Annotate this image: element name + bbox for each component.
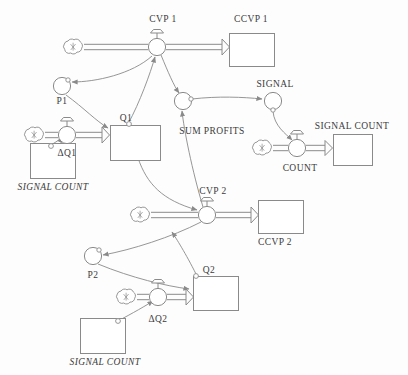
handle-signal-out[interactable] (271, 108, 275, 112)
cloud-icon-dq2 (117, 289, 136, 304)
label-ccvp1: CCVP 1 (234, 14, 268, 24)
flow-arrow-q1 (102, 127, 110, 143)
label-p2: P2 (88, 270, 99, 280)
aux-sum-profits[interactable] (174, 92, 191, 109)
connector-handles (49, 78, 276, 324)
cloud-icon-cvp1 (64, 39, 83, 54)
valve-cvp2[interactable] (198, 198, 215, 224)
label-cvp2: CVP 2 (199, 186, 226, 196)
label-sum-profits: SUM PROFITS (179, 126, 244, 136)
label-q2: Q2 (203, 265, 215, 275)
flow-cloud-to-count (273, 145, 288, 150)
conn-signal-to-count (273, 111, 292, 140)
label-signal-count-left-2: SIGNAL COUNT (70, 357, 141, 367)
conn-p1-to-q1 (66, 95, 108, 128)
flow-arrow-ccvp2 (251, 207, 259, 223)
aux-signal[interactable] (264, 92, 281, 109)
stock-q2[interactable] (194, 277, 239, 311)
valve-dq2[interactable] (149, 280, 166, 306)
label-q1: Q1 (120, 113, 132, 123)
flow-arrow-signal-count (325, 141, 333, 156)
conn-q1-to-cvp2 (138, 158, 197, 210)
conn-sum-profits-to-signal (192, 97, 262, 99)
label-p1: P1 (57, 96, 68, 106)
label-dq1: ΔQ1 (58, 148, 77, 158)
label-ccvp2: CCVP 2 (258, 237, 292, 247)
flow-arrow-ccvp1 (222, 39, 230, 55)
label-signal: SIGNAL (256, 79, 293, 89)
stock-signal-count-right[interactable] (334, 135, 373, 166)
flow-cloud-to-cvp2 (151, 212, 198, 217)
cloud-icon-dq1 (25, 127, 44, 142)
label-signal-count-right: SIGNAL COUNT (315, 121, 389, 131)
stock-ccvp2[interactable] (259, 201, 304, 234)
flow-count-to-signal-count (306, 141, 333, 156)
handle-q2-origin[interactable] (194, 274, 199, 279)
label-cvp1: CVP 1 (149, 14, 176, 24)
flow-arrow-q2 (186, 289, 194, 305)
flow-cloud-to-cvp1 (84, 44, 148, 49)
flow-cloud-to-dq2 (137, 294, 149, 299)
diagram-canvas: CVP 1 CCVP 1 P1 Q1 ΔQ1 SIGNAL COUNT SUM … (0, 0, 408, 375)
cloud-icon-cvp2 (131, 207, 150, 222)
handle-sc2-origin[interactable] (116, 319, 121, 324)
flow-dq2-to-q2 (167, 289, 194, 305)
valve-cvp1[interactable] (148, 30, 165, 56)
conn-p2-to-q2 (98, 264, 189, 289)
flow-cvp2-to-ccvp2 (216, 207, 259, 223)
handle-sumprofits-out[interactable] (189, 97, 193, 101)
flow-cloud-to-dq1 (45, 132, 58, 137)
conn-cvp1-to-p1 (72, 56, 152, 82)
stock-q1[interactable] (111, 126, 161, 161)
stock-signal-count-left-2[interactable] (81, 319, 126, 354)
flow-cvp1-to-ccvp1 (166, 39, 230, 55)
stock-ccvp1[interactable] (230, 34, 275, 67)
valve-dq1[interactable] (58, 118, 75, 144)
cloud-icon-count (253, 140, 272, 155)
conn-cvp2-to-p2 (103, 222, 201, 255)
label-dq2: ΔQ2 (149, 314, 168, 324)
conn-q2-to-cvp2 (172, 232, 196, 274)
conn-cvp1-to-sum-profits (161, 55, 179, 93)
label-count: COUNT (283, 163, 318, 173)
flow-dq1-to-q1 (76, 127, 110, 143)
handle-sc1-origin[interactable] (49, 144, 54, 149)
valve-count[interactable] (288, 131, 305, 157)
handle-p1-origin[interactable] (66, 78, 70, 82)
handle-p2-origin[interactable] (97, 248, 101, 252)
label-signal-count-left-1: SIGNAL COUNT (18, 182, 89, 192)
